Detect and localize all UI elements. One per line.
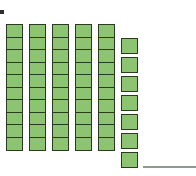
unit-cube [75, 137, 92, 151]
bullet-marker-icon [0, 10, 4, 14]
unit-cube [6, 137, 23, 151]
tens-rod [52, 24, 69, 151]
unit-cube [52, 137, 69, 151]
ones-cube [121, 152, 138, 168]
ones-cube [121, 133, 138, 149]
ones-cube [121, 57, 138, 73]
tens-rod [29, 24, 46, 151]
ones-cube [121, 38, 138, 54]
tens-rod [6, 24, 23, 151]
base-ten-blocks-figure [0, 0, 196, 176]
answer-line[interactable] [143, 166, 196, 168]
tens-rod [98, 24, 115, 151]
ones-cube [121, 114, 138, 130]
ones-cubes-column [121, 38, 138, 168]
unit-cube [29, 137, 46, 151]
ones-cube [121, 95, 138, 111]
ones-cube [121, 76, 138, 92]
unit-cube [98, 137, 115, 151]
tens-rod [75, 24, 92, 151]
